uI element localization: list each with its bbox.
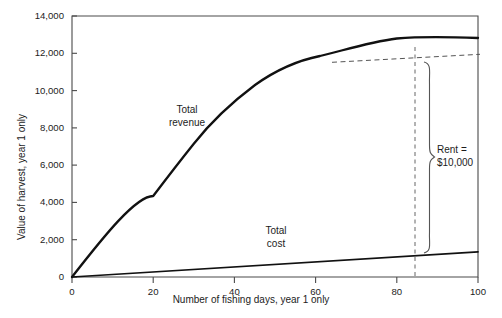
series-label-total-cost: Total cost [250, 225, 302, 250]
annotation-rent-line1: Rent = [437, 143, 495, 156]
x-axis-title: Number of fishing days, year 1 only [0, 294, 502, 305]
series-label-total-cost-line2: cost [250, 238, 302, 251]
y-tick-label: 14,000 [8, 10, 64, 21]
annotation-rent-line2: $10,000 [437, 156, 495, 169]
series-total-cost [72, 252, 478, 277]
series-label-total-cost-line1: Total [250, 225, 302, 238]
y-axis-title: Value of harvest, year 1 only [16, 114, 27, 240]
y-axis-ticks [72, 16, 77, 277]
x-axis-ticks [72, 277, 478, 283]
series-label-total-revenue-line2: revenue [156, 117, 218, 130]
rent-brace [424, 62, 435, 253]
chart-container: 14,000 12,000 10,000 8,000 6,000 4,000 2… [0, 0, 502, 318]
chart-plot-area [0, 0, 502, 318]
y-tick-label: 12,000 [8, 47, 64, 58]
tangent-dashed-line [332, 54, 480, 62]
series-label-total-revenue: Total revenue [156, 104, 218, 129]
series-label-total-revenue-line1: Total [156, 104, 218, 117]
annotation-rent: Rent = $10,000 [437, 143, 495, 169]
y-tick-label: 0 [8, 271, 64, 282]
y-tick-label: 10,000 [8, 85, 64, 96]
